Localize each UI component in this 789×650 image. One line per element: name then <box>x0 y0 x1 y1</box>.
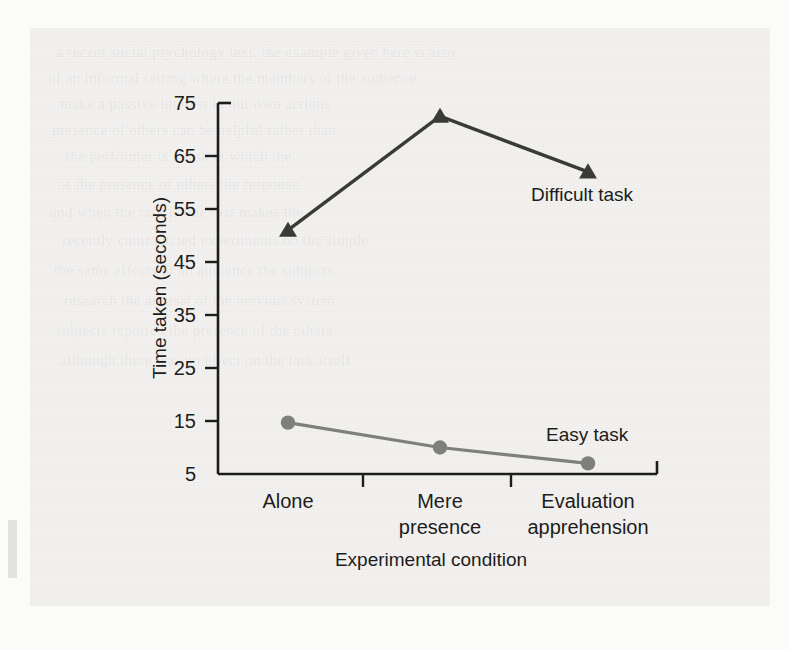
data-point-marker <box>433 440 447 454</box>
x-axis-category-labels: AloneMerepresenceEvaluationapprehension <box>262 490 648 538</box>
y-axis-title: Time taken (seconds) <box>149 197 170 379</box>
y-axis-tick-label: 65 <box>174 145 196 167</box>
data-point-marker <box>581 456 595 470</box>
series-difficult-task <box>279 108 597 237</box>
y-axis-tick-labels: 515253545556575 <box>174 92 196 485</box>
series-line <box>288 116 588 230</box>
y-axis-ticks <box>205 156 218 421</box>
y-axis-tick-label: 5 <box>185 463 196 485</box>
y-axis-tick-label: 35 <box>174 304 196 326</box>
figure-page: a recent social psychology text, the exa… <box>0 0 789 650</box>
data-point-marker <box>281 415 295 429</box>
y-axis-tick-label: 45 <box>174 251 196 273</box>
y-axis-tick-label: 75 <box>174 92 196 114</box>
x-axis-title: Experimental condition <box>335 549 527 570</box>
x-axis-category-label: Merepresence <box>399 490 481 538</box>
x-axis-ticks <box>363 474 511 487</box>
x-axis-category-label: Evaluationapprehension <box>527 490 648 538</box>
series-label-easy-task: Easy task <box>546 424 629 445</box>
x-axis-category-label: Alone <box>262 490 313 512</box>
data-point-marker <box>431 108 449 123</box>
y-axis-tick-label: 25 <box>174 357 196 379</box>
y-axis-tick-label: 55 <box>174 198 196 220</box>
data-series-layer <box>279 108 597 471</box>
series-label-difficult-task: Difficult task <box>531 184 634 205</box>
y-axis-tick-label: 15 <box>174 410 196 432</box>
line-chart: 515253545556575 Time taken (seconds) Alo… <box>0 0 789 650</box>
